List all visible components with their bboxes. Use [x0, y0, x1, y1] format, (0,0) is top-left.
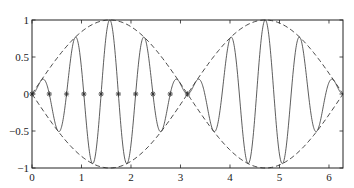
x-tick-label: 6 — [326, 171, 332, 183]
x-tick-label: 4 — [227, 171, 233, 183]
x-tick-label: 0 — [29, 171, 35, 183]
y-tick-label: 0.5 — [15, 51, 29, 63]
asterisk-marker — [116, 91, 121, 96]
x-tick-label: 1 — [79, 171, 85, 183]
asterisk-marker — [81, 91, 86, 96]
asterisk-marker — [47, 91, 52, 96]
x-tick-label: 5 — [277, 171, 283, 183]
asterisk-marker — [150, 91, 155, 96]
chart: 0123456 −1−0.500.51 — [0, 0, 354, 188]
y-tick-label: 1 — [24, 14, 30, 26]
asterisk-marker — [185, 91, 190, 96]
asterisk-marker — [99, 91, 104, 96]
y-tick-label: 0 — [24, 88, 30, 100]
y-tick-label: −1 — [17, 162, 29, 174]
x-tick-label: 3 — [178, 171, 184, 183]
y-tick-label: −0.5 — [9, 125, 29, 137]
asterisk-marker — [133, 91, 138, 96]
asterisk-marker — [168, 91, 173, 96]
x-tick-label: 2 — [128, 171, 134, 183]
zero-markers — [29, 91, 190, 96]
asterisk-marker — [64, 91, 69, 96]
x-tick-labels: 0123456 — [29, 171, 332, 183]
y-tick-labels: −1−0.500.51 — [9, 14, 29, 174]
